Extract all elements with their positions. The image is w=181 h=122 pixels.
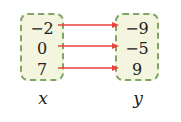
domain-label: x xyxy=(33,88,53,108)
mapping-arrows xyxy=(0,0,181,122)
range-label: y xyxy=(128,88,148,108)
